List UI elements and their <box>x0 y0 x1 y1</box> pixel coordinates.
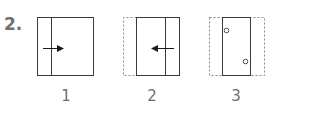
arrow-right-icon <box>43 45 64 52</box>
arrow-left-icon <box>151 45 174 52</box>
panel-1-figure <box>38 18 94 76</box>
panel-2-label: 2 <box>142 87 162 105</box>
panel-3-figure <box>210 18 265 76</box>
panel-2-figure <box>124 18 180 76</box>
panel-1-label: 1 <box>56 87 76 105</box>
panel-3-label: 3 <box>226 87 246 105</box>
